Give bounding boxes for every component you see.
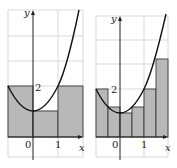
left-axes: [8, 10, 83, 160]
riemann-rect: [156, 59, 168, 137]
origin-label: 0: [25, 139, 31, 150]
riemann-rect: [144, 89, 156, 137]
figure-canvas: y x 2 0 1: [0, 0, 177, 168]
left-rectangles: [8, 86, 83, 137]
x-tick-1: 1: [55, 139, 61, 150]
y-axis-label: y: [110, 13, 117, 24]
y-tick-2: 2: [111, 84, 117, 95]
y-axis-label: y: [23, 7, 30, 18]
y-axis-arrow-icon: [31, 10, 35, 15]
y-tick-2: 2: [35, 82, 41, 93]
y-axis-arrow-icon: [118, 16, 122, 21]
riemann-rect: [58, 86, 83, 137]
riemann-rect: [132, 107, 144, 137]
riemann-rect: [96, 89, 108, 137]
x-tick-1: 1: [141, 139, 147, 150]
riemann-rect: [120, 113, 132, 137]
x-axis-label: x: [165, 142, 171, 153]
right-rectangles: [96, 59, 168, 137]
riemann-rect: [33, 111, 58, 137]
right-panel: y x 2 0 1: [96, 13, 171, 160]
x-axis-label: x: [79, 142, 85, 153]
left-panel: y x 2 0 1: [8, 7, 85, 160]
origin-label: 0: [112, 139, 118, 150]
